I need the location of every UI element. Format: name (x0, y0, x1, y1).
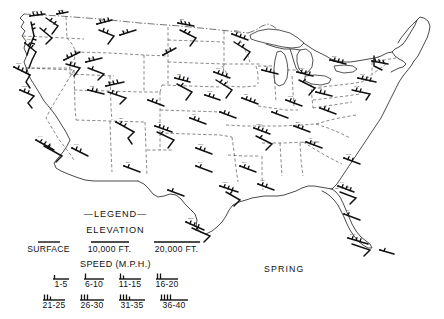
svg-text:PHX: PHX (74, 143, 79, 146)
wind-barb (174, 76, 190, 82)
wind-barb (189, 117, 206, 124)
wind-barb (123, 165, 140, 172)
wind-barb (28, 96, 34, 108)
wind-barb (253, 127, 270, 134)
speed-label-36-40: 36-40 (163, 300, 186, 310)
wind-barb (379, 248, 394, 254)
wind-barb (180, 30, 196, 47)
wind-barb (128, 132, 134, 144)
svg-text:ALB: ALB (374, 56, 379, 59)
svg-text:DTW: DTW (299, 67, 305, 70)
wind-barb (319, 107, 336, 114)
legend-speed-36-40: 36-40 (156, 292, 192, 310)
wind-barb (352, 88, 370, 100)
legend-speed-row-2: 21-25 26-30 31-35 36-40 (8, 292, 223, 310)
svg-text:MKC: MKC (207, 90, 213, 93)
speed-label-21-25: 21-25 (43, 300, 66, 310)
svg-text:MEM: MEM (256, 123, 262, 126)
svg-text:BUF: BUF (332, 55, 337, 58)
svg-text:ICT: ICT (192, 113, 196, 116)
wind-barb (343, 213, 360, 220)
svg-text:HOU: HOU (222, 181, 228, 184)
speed-label-6-10: 6-10 (85, 279, 103, 289)
svg-text:GTF: GTF (99, 19, 104, 22)
weather-map: SEA SPK PDX BOI MFR RNO SLC GTF BIL BIS … (0, 0, 444, 319)
wind-barb (108, 91, 126, 105)
svg-text:ATL: ATL (308, 137, 313, 140)
svg-text:CHI: CHI (264, 65, 268, 68)
wind-barb (177, 21, 194, 26)
legend-heading: —LEGEND— (8, 209, 223, 219)
svg-text:ABQ: ABQ (118, 117, 123, 120)
wind-barb (352, 244, 370, 256)
legend-speed-31-35: 31-35 (115, 292, 149, 310)
wind-barb (231, 33, 248, 40)
legend: —LEGEND— ELEVATION SURFACE 10,000 FT. 20 (8, 209, 223, 310)
svg-text:GJT: GJT (90, 85, 95, 88)
svg-text:WAS: WAS (354, 85, 360, 88)
svg-text:JAX: JAX (340, 181, 345, 184)
wind-barb (241, 97, 258, 104)
wind-barb (29, 52, 36, 68)
wind-barb (31, 22, 35, 36)
legend-speed-6-10: 6-10 (80, 271, 108, 289)
wind-barb (234, 42, 250, 60)
svg-text:STP: STP (234, 29, 239, 32)
speed-label-16-20: 16-20 (156, 279, 179, 289)
svg-text:LAX: LAX (38, 135, 43, 138)
svg-text:DEN: DEN (108, 81, 113, 84)
speed-label-31-35: 31-35 (121, 300, 144, 310)
svg-text:AMA: AMA (157, 121, 163, 124)
legend-speed-1-5: 1-5 (49, 271, 73, 289)
svg-text:ELP: ELP (126, 161, 131, 164)
wind-barb (239, 165, 256, 172)
legend-elevation-heading: ELEVATION (8, 225, 223, 235)
svg-text:TPA: TPA (346, 209, 351, 212)
wind-barb (71, 147, 88, 156)
legend-elevation-row: SURFACE 10,000 FT. 20,000 FT. (8, 238, 223, 254)
wind-barb (40, 28, 52, 44)
svg-text:SEA: SEA (32, 10, 37, 13)
station-label-group: SEA SPK PDX BOI MFR RNO SLC GTF BIL BIS … (16, 9, 379, 236)
legend-speed-heading: SPEED (M.P.H.) (8, 259, 223, 269)
wind-barb (13, 66, 30, 75)
svg-text:PDX: PDX (27, 38, 32, 41)
season-label: SPRING (264, 264, 304, 274)
legend-speed-26-30: 26-30 (76, 292, 108, 310)
legend-speed-16-20: 16-20 (152, 271, 182, 289)
speed-label-1-5: 1-5 (54, 279, 67, 289)
svg-text:MSY: MSY (260, 179, 266, 182)
svg-text:MFR: MFR (16, 62, 21, 65)
svg-text:PIT: PIT (318, 87, 322, 90)
svg-text:EYW: EYW (350, 233, 356, 236)
svg-text:STL: STL (244, 93, 249, 96)
legend-elevation-surface: SURFACE (26, 238, 72, 254)
wind-barb (88, 67, 104, 80)
wind-barb (226, 192, 240, 207)
svg-text:BIS: BIS (180, 18, 184, 21)
wind-barb (147, 99, 164, 106)
wind-barb (195, 165, 212, 172)
great-lakes (250, 29, 357, 86)
wind-barb (219, 185, 238, 192)
wind-barb (337, 185, 354, 192)
wind-barb (157, 131, 174, 148)
state-borders (23, 17, 396, 190)
wind-barb (213, 71, 230, 78)
elevation-label-surface: SURFACE (27, 244, 70, 254)
wind-barb (315, 90, 332, 96)
wind-barb (46, 18, 58, 34)
svg-text:BIL: BIL (122, 30, 126, 33)
svg-text:RAP: RAP (165, 50, 170, 53)
svg-text:SPK: SPK (59, 9, 64, 12)
wind-barb (216, 80, 232, 98)
wind-barb (357, 76, 376, 82)
wind-barb (35, 139, 54, 150)
svg-text:RNO: RNO (22, 85, 27, 88)
svg-text:BOI: BOI (66, 55, 70, 58)
svg-text:CVG: CVG (288, 95, 293, 98)
legend-speed-row-1: 1-5 6-10 11-15 16-20 (8, 271, 223, 289)
svg-text:LBF: LBF (177, 73, 182, 76)
elevation-label-10000: 10,000 FT. (88, 244, 132, 254)
legend-speed-11-15: 11-15 (115, 271, 145, 289)
